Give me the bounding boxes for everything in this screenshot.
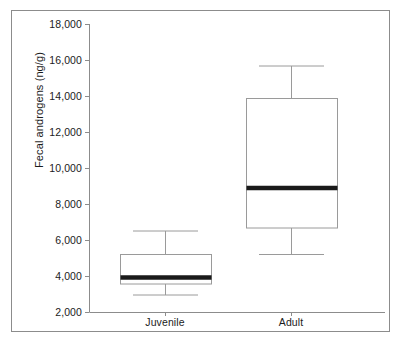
box-plot-figure: 18,000 16,000 14,000 12,000 10,000 8,000…	[0, 0, 401, 345]
box-adult	[247, 66, 338, 255]
y-axis-ticks	[85, 25, 90, 313]
box-rect-adult	[247, 99, 338, 229]
plot-area	[0, 0, 401, 345]
box-juvenile	[121, 231, 212, 295]
